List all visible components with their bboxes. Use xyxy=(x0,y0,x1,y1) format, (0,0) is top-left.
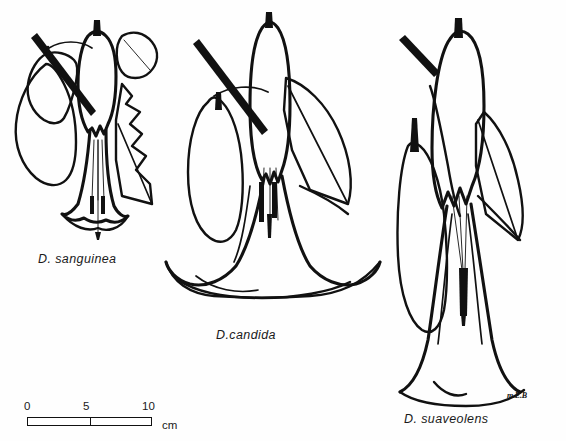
botanical-line-drawing xyxy=(0,0,566,441)
caption-sanguinea: D. sanguinea xyxy=(38,252,116,266)
style-suaveolens xyxy=(461,314,466,326)
leaf-right-vein-candida xyxy=(288,86,348,204)
scale-bar: 0 5 10 cm xyxy=(24,400,194,434)
stamen-line-3-suaveolens xyxy=(465,196,467,270)
anther-2-sanguinea xyxy=(101,196,105,214)
bud-candida xyxy=(188,98,243,242)
anther-1-candida xyxy=(259,182,264,222)
scale-tick-labels: 0 5 10 xyxy=(24,400,194,414)
stem-suaveolens xyxy=(399,35,440,77)
leaf-left-stalk-suaveolens xyxy=(410,118,419,152)
artist-monogram: m.E.B xyxy=(507,391,527,400)
anther-1-sanguinea xyxy=(90,196,94,214)
stamen-line-1-sanguinea xyxy=(92,140,94,200)
illustration-plate: D. sanguinea D.candida D. suaveolens 0 5… xyxy=(0,0,566,441)
scale-unit-label: cm xyxy=(162,419,177,431)
specimen-sanguinea xyxy=(16,20,157,240)
caption-candida: D.candida xyxy=(216,328,276,342)
stamen-line-3-sanguinea xyxy=(102,140,104,200)
specimen-candida xyxy=(166,12,380,298)
caption-suaveolens: D. suaveolens xyxy=(404,412,488,426)
stigma-sanguinea xyxy=(95,232,101,240)
scale-bar-divider xyxy=(90,418,92,425)
leaf-small-midrib-sanguinea xyxy=(124,40,150,70)
style-candida xyxy=(267,214,272,238)
stamen-line-2-suaveolens xyxy=(459,196,463,270)
corolla-left-suaveolens xyxy=(400,206,447,392)
scale-tick-label-0: 0 xyxy=(24,400,30,412)
scale-tick-label-10: 10 xyxy=(142,400,155,412)
calyx-tip-candida xyxy=(265,12,273,28)
scale-bar-graphic xyxy=(27,417,152,426)
corolla-rim-fold-suaveolens xyxy=(434,382,466,396)
anther-bundle-suaveolens xyxy=(459,268,468,316)
calyx-tip-sanguinea xyxy=(93,20,101,36)
anther-2-candida xyxy=(272,182,277,218)
leaf-toothed-sanguinea xyxy=(116,84,152,204)
corolla-rim-suaveolens xyxy=(400,390,524,406)
specimen-suaveolens xyxy=(397,18,524,406)
leaf-toothed-midrib-sanguinea xyxy=(118,124,152,204)
scale-tick-label-5: 5 xyxy=(83,400,89,412)
calyx-sanguinea xyxy=(78,32,116,137)
stem-candida xyxy=(193,39,268,135)
leaf-right-lower-suaveolens xyxy=(478,196,520,240)
corolla-rim-outer-candida xyxy=(166,262,380,298)
corolla-right-candida xyxy=(282,176,380,285)
calyx-tip-suaveolens xyxy=(454,18,463,38)
leaf-left-suaveolens xyxy=(397,143,447,332)
